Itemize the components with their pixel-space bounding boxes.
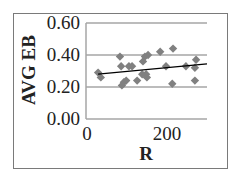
- x-axis-tick-labels: 0200: [82, 123, 181, 144]
- trendline-line: [98, 64, 207, 74]
- data-point-diamond: [116, 52, 124, 60]
- y-tick-label: 0.60: [47, 12, 80, 33]
- y-tick-label: 0.00: [47, 108, 80, 129]
- y-axis-tick-labels: 0.000.200.400.60: [47, 12, 80, 129]
- data-point-diamond: [169, 44, 177, 52]
- data-point-diamond: [192, 56, 200, 64]
- trendline: [98, 64, 207, 74]
- data-point-diamond: [191, 76, 199, 84]
- y-axis-title: AVG EB: [18, 35, 39, 105]
- x-axis-title: R: [139, 143, 153, 164]
- scatter-chart: 0.000.200.400.60 0200 AVG EB R: [0, 0, 244, 181]
- x-tick-label: 200: [153, 123, 182, 144]
- data-point-diamond: [162, 62, 170, 70]
- data-point-diamond: [133, 76, 141, 84]
- x-tick-label: 0: [82, 123, 92, 144]
- data-points: [94, 44, 200, 89]
- data-point-diamond: [117, 62, 125, 70]
- y-tick-label: 0.40: [47, 44, 80, 65]
- y-tick-label: 0.20: [47, 76, 80, 97]
